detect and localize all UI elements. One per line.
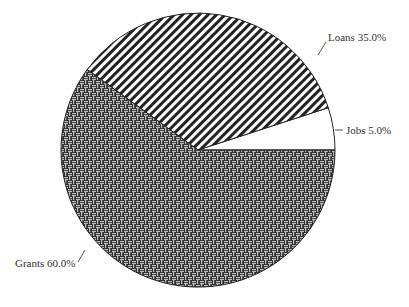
label-loans: Loans 35.0% [328,31,386,43]
leader-grants [78,250,85,262]
leader-loans [318,42,326,55]
label-jobs: Jobs 5.0% [346,124,391,136]
pie-chart: Loans 35.0% Jobs 5.0% Grants 60.0% [0,0,409,307]
label-grants: Grants 60.0% [15,257,76,269]
